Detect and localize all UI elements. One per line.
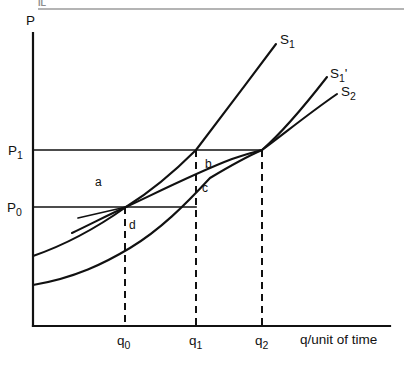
curve-s1	[72, 44, 276, 233]
region-label-d: d	[129, 218, 136, 232]
supply-curve-figure: P q/unit of time P1 P0 q0 q1 q2	[0, 0, 404, 366]
quantity-tick-q1-sub: 1	[197, 339, 203, 351]
svg-text:S2: S2	[341, 84, 356, 102]
curve-label-s1-sub: 1	[289, 38, 295, 50]
curve-label-s1-prime-main: S	[330, 66, 339, 81]
curve-label-s1-prime: S1'	[330, 66, 347, 84]
curve-label-s2-sub: 2	[350, 90, 356, 102]
quantity-tick-q2-sub: 2	[263, 339, 269, 351]
curve-s2	[33, 94, 337, 285]
quantity-tick-q1-main: q	[189, 333, 197, 348]
quantity-tick-q0-main: q	[117, 333, 125, 348]
region-label-a: a	[95, 175, 102, 189]
curve-label-s1-main: S	[280, 32, 289, 47]
quantity-tick-q0: q0	[117, 333, 131, 351]
price-tick-p0-sub: 0	[16, 206, 22, 218]
curve-label-s1-prime-mark: '	[345, 66, 348, 81]
curve-label-s1: S1	[280, 32, 295, 50]
curve-label-s2: S2	[341, 84, 356, 102]
svg-text:P1: P1	[8, 143, 23, 161]
svg-text:q0: q0	[117, 333, 131, 351]
quantity-tick-q2-main: q	[255, 333, 263, 348]
price-tick-p1-main: P	[8, 143, 17, 158]
curve-label-s2-main: S	[341, 84, 350, 99]
svg-text:P0: P0	[7, 200, 22, 218]
svg-text:S1': S1'	[330, 66, 347, 84]
region-label-b: b	[205, 157, 212, 171]
svg-text:q1: q1	[189, 333, 203, 351]
svg-text:q2: q2	[255, 333, 269, 351]
quantity-tick-q2: q2	[255, 333, 269, 351]
corner-page-fragment: IL	[38, 0, 47, 8]
svg-text:S1: S1	[280, 32, 295, 50]
price-tick-p0: P0	[7, 200, 22, 218]
quantity-tick-q0-sub: 0	[125, 339, 131, 351]
price-tick-p0-main: P	[7, 200, 16, 215]
y-axis-label: P	[26, 13, 35, 28]
price-tick-p1: P1	[8, 143, 23, 161]
supply-curve-svg: P q/unit of time P1 P0 q0 q1 q2	[0, 0, 404, 366]
x-axis-label: q/unit of time	[300, 332, 377, 347]
region-label-c: c	[202, 181, 208, 195]
quantity-tick-q1: q1	[189, 333, 203, 351]
price-tick-p1-sub: 1	[17, 149, 23, 161]
